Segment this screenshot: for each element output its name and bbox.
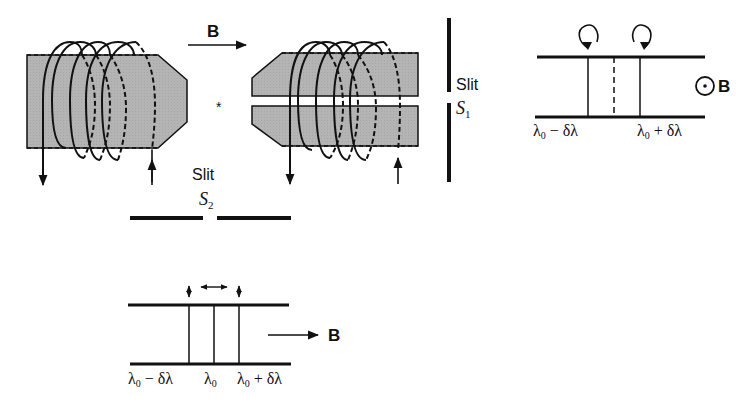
label-plus: λ0 + δλ [637,122,682,141]
label-center: λ0 [204,370,217,389]
slit-s1-word: Slit [456,76,479,93]
field-arrow-top: B [188,22,246,45]
field-label-top: B [207,22,219,41]
label-minus: λ0 − δλ [533,122,578,141]
field-label-longitudinal: B [718,77,730,96]
longitudinal-view: B λ0 − δλ λ0 + δλ [533,25,730,141]
zeeman-diagram: B * [0,0,736,410]
transverse-view: B λ0 − δλ λ0 λ0 + δλ [128,286,340,389]
label-plus: λ0 + δλ [237,370,282,389]
slit-s2-word: Slit [192,166,215,183]
left-pole-piece [27,42,187,185]
slit-s1: Slit S1 [447,18,479,182]
right-pole-piece [252,42,418,184]
slit-s2: Slit S2 [130,166,291,220]
field-label-transverse: B [328,326,340,345]
light-source-marker: * [216,99,222,115]
label-minus: λ0 − δλ [128,370,173,389]
slit-s1-symbol: S1 [456,98,471,120]
slit-s2-symbol: S2 [199,189,214,211]
